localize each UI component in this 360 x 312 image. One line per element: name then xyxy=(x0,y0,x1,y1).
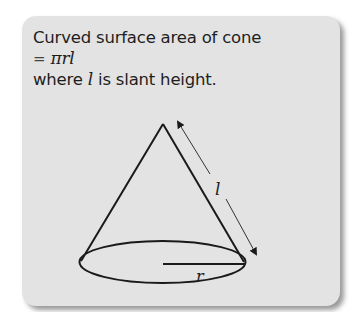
slant-label: l xyxy=(215,179,220,199)
cone-base-ellipse xyxy=(80,241,246,283)
slant-arrow-up xyxy=(178,122,210,174)
radius-label: r xyxy=(196,267,205,286)
cone-diagram: l r xyxy=(0,0,360,312)
slant-arrow-down xyxy=(226,199,256,254)
